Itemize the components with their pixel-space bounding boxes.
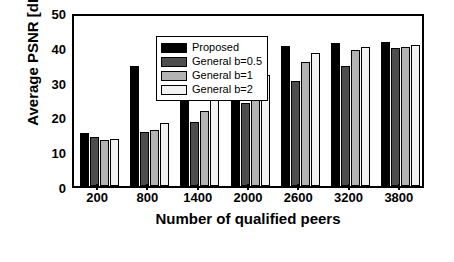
bar — [160, 123, 169, 186]
bar — [341, 66, 350, 186]
legend-swatch — [161, 57, 187, 67]
x-tick-label: 3800 — [384, 190, 413, 205]
y-tick-label: 0 — [59, 181, 66, 196]
bar — [331, 43, 340, 186]
legend-swatch — [161, 43, 187, 53]
legend-label: Proposed — [192, 42, 239, 53]
y-axis-tick-labels: 01020304050 — [26, 14, 70, 188]
bar — [381, 42, 390, 186]
legend-item: General b=1 — [161, 69, 262, 82]
legend-swatch — [161, 71, 187, 81]
bar — [251, 92, 260, 186]
bar — [80, 133, 89, 186]
y-tick-label: 20 — [52, 111, 66, 126]
bar — [140, 132, 149, 186]
legend-item: Proposed — [161, 41, 262, 54]
bar — [190, 122, 199, 186]
bar — [351, 50, 360, 186]
x-tick-label: 800 — [137, 190, 159, 205]
plot-area: ProposedGeneral b=0.5General b=1General … — [72, 14, 424, 188]
x-tick-label: 2000 — [234, 190, 263, 205]
x-tick-label: 200 — [86, 190, 108, 205]
bar — [291, 81, 300, 186]
legend-label: General b=0.5 — [192, 56, 262, 67]
x-tick-mark — [247, 184, 249, 190]
bar — [210, 88, 219, 186]
bar — [241, 103, 250, 186]
x-tick-mark — [348, 184, 350, 190]
y-tick-label: 30 — [52, 76, 66, 91]
x-axis-tick-labels: 20080014002000260032003800 — [72, 190, 424, 210]
x-tick-mark — [197, 184, 199, 190]
bar — [401, 47, 410, 186]
legend-label: General b=2 — [192, 84, 253, 95]
legend-item: General b=2 — [161, 83, 262, 96]
x-tick-mark — [398, 184, 400, 190]
bar — [411, 45, 420, 186]
x-tick-mark — [297, 184, 299, 190]
bar — [130, 66, 139, 186]
y-tick-label: 50 — [52, 7, 66, 22]
bar — [301, 62, 310, 186]
chart-legend: ProposedGeneral b=0.5General b=1General … — [156, 36, 268, 101]
legend-label: General b=1 — [192, 70, 253, 81]
bar — [281, 46, 290, 186]
bar — [150, 130, 159, 186]
x-tick-mark — [146, 184, 148, 190]
x-tick-label: 2600 — [284, 190, 313, 205]
bar — [110, 139, 119, 186]
y-tick-label: 10 — [52, 146, 66, 161]
bar — [361, 47, 370, 186]
legend-item: General b=0.5 — [161, 55, 262, 68]
x-tick-mark — [96, 184, 98, 190]
chart-container: Average PSNR [dB] 01020304050 ProposedGe… — [0, 0, 454, 262]
x-axis-title: Number of qualified peers — [72, 210, 424, 227]
x-tick-label: 3200 — [334, 190, 363, 205]
bar — [391, 48, 400, 186]
bar — [100, 140, 109, 186]
x-tick-label: 1400 — [183, 190, 212, 205]
bar — [200, 111, 209, 186]
bar — [311, 53, 320, 186]
bar — [90, 137, 99, 186]
y-tick-label: 40 — [52, 41, 66, 56]
legend-swatch — [161, 85, 187, 95]
